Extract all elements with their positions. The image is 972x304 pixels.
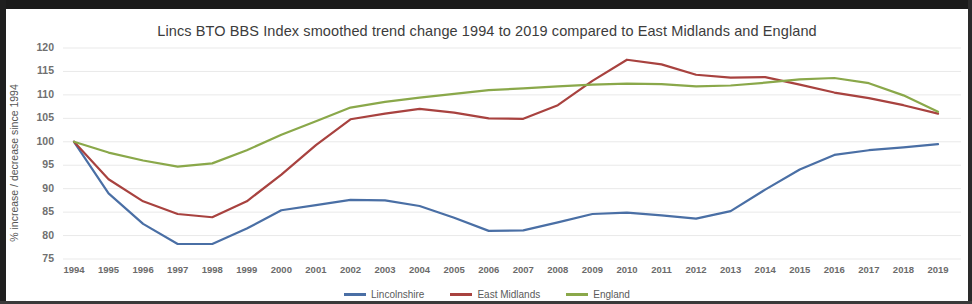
legend-item-east-midlands[interactable]: East Midlands <box>450 289 540 300</box>
scanned-page: Lincs BTO BBS Index smoothed trend chang… <box>0 0 972 304</box>
legend-item-england[interactable]: England <box>566 289 630 300</box>
legend-label: England <box>593 289 630 300</box>
legend-swatch-icon <box>566 293 588 296</box>
legend-swatch-icon <box>344 293 366 296</box>
y-tick-label: 110 <box>20 88 54 100</box>
gridlines <box>63 48 961 259</box>
x-tick-label: 2019 <box>918 264 958 275</box>
series-line-england <box>74 78 938 167</box>
series-line-lincolnshire <box>74 142 938 244</box>
line-chart: Lincs BTO BBS Index smoothed trend chang… <box>6 9 968 301</box>
legend-label: Lincolnshire <box>371 289 424 300</box>
y-tick-label: 100 <box>20 135 54 147</box>
plot-area <box>6 9 968 301</box>
y-tick-label: 80 <box>20 229 54 241</box>
y-tick-label: 115 <box>20 64 54 76</box>
chart-legend: LincolnshireEast MidlandsEngland <box>6 289 968 300</box>
y-tick-label: 120 <box>20 41 54 53</box>
y-tick-label: 75 <box>20 252 54 264</box>
legend-item-lincolnshire[interactable]: Lincolnshire <box>344 289 424 300</box>
y-tick-label: 90 <box>20 182 54 194</box>
series-lines <box>74 60 938 244</box>
y-tick-label: 85 <box>20 205 54 217</box>
series-line-east-midlands <box>74 60 938 218</box>
legend-swatch-icon <box>450 293 472 296</box>
legend-label: East Midlands <box>477 289 540 300</box>
y-tick-label: 95 <box>20 158 54 170</box>
y-tick-label: 105 <box>20 111 54 123</box>
scan-border-right <box>968 0 972 304</box>
scan-border-top <box>0 0 972 9</box>
